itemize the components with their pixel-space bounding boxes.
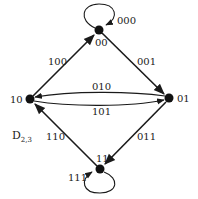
graph-title-subscript: 2,3 xyxy=(21,136,32,144)
edge-label-001: 001 xyxy=(137,56,156,67)
edge-111-self-loop xyxy=(84,172,114,193)
edge-label-010: 010 xyxy=(92,81,111,92)
edge-011 xyxy=(105,102,166,164)
edge-000-self-loop xyxy=(84,4,114,28)
node-00 xyxy=(95,26,104,35)
node-01 xyxy=(165,94,174,103)
graph-title: D2,3 xyxy=(12,129,32,144)
edge-label-000: 000 xyxy=(117,15,136,26)
edge-label-011: 011 xyxy=(137,131,156,142)
node-label-01: 01 xyxy=(177,93,190,104)
node-label-00: 00 xyxy=(95,37,108,48)
edge-010 xyxy=(35,92,165,97)
edge-label-111: 111 xyxy=(68,172,87,183)
node-10 xyxy=(26,95,35,104)
edge-110 xyxy=(35,104,97,166)
edge-label-101: 101 xyxy=(92,106,111,117)
edge-101 xyxy=(34,100,164,105)
de-bruijn-graph-diagram: 00 01 10 11 000 001 010 011 100 101 110 … xyxy=(0,0,198,199)
node-label-11: 11 xyxy=(96,153,109,164)
edge-label-100: 100 xyxy=(48,56,67,67)
node-11 xyxy=(96,165,105,174)
edge-label-110: 110 xyxy=(46,131,65,142)
graph-title-main: D xyxy=(12,129,21,142)
node-label-10: 10 xyxy=(10,94,23,105)
